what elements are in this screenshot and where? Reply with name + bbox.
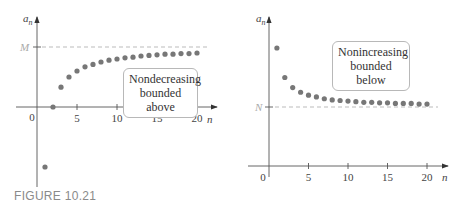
- x-tick-label: 10: [343, 171, 355, 183]
- y-axis-label: an: [23, 12, 33, 27]
- origin-label: 0: [260, 171, 266, 183]
- data-point: [122, 55, 127, 60]
- data-point: [178, 51, 183, 56]
- data-point: [274, 45, 279, 50]
- data-point: [66, 74, 71, 79]
- data-point: [42, 164, 47, 169]
- data-point: [282, 75, 287, 80]
- x-tick-label: 15: [382, 171, 394, 183]
- data-point: [409, 101, 414, 106]
- annotation-line-1: Nonincreasing: [338, 45, 404, 59]
- right-chart: 5101520 0 n an N: [248, 12, 448, 183]
- data-point: [154, 52, 159, 57]
- data-point: [314, 94, 319, 99]
- data-point: [361, 100, 366, 105]
- data-point: [58, 85, 63, 90]
- data-point: [417, 101, 422, 106]
- data-point: [106, 58, 111, 63]
- data-point: [146, 53, 151, 58]
- data-point: [385, 100, 390, 105]
- x-tick-label: 5: [306, 171, 312, 183]
- data-point: [377, 100, 382, 105]
- data-point: [82, 64, 87, 69]
- origin-label: 0: [29, 111, 35, 123]
- x-axis-label: n: [442, 171, 448, 183]
- data-point: [74, 68, 79, 73]
- bound-label: N: [254, 101, 263, 113]
- data-point: [369, 100, 374, 105]
- x-tick-label: 10: [112, 112, 124, 124]
- data-point: [138, 53, 143, 58]
- data-point: [424, 101, 429, 106]
- annotation-left: Nondecreasing bounded above: [123, 68, 198, 118]
- data-point: [98, 59, 103, 64]
- data-point: [322, 96, 327, 101]
- data-point: [338, 98, 343, 103]
- data-point: [401, 101, 406, 106]
- data-point: [298, 90, 303, 95]
- data-point: [130, 55, 135, 60]
- data-point: [393, 101, 398, 106]
- data-point: [90, 62, 95, 67]
- annotation-line-2: bounded below: [338, 59, 404, 87]
- data-point: [186, 51, 191, 56]
- data-point: [114, 56, 119, 61]
- data-point: [170, 52, 175, 57]
- data-point: [290, 85, 295, 90]
- x-tick-label: 20: [422, 171, 434, 183]
- data-point: [306, 93, 311, 98]
- data-point: [50, 104, 55, 109]
- y-axis-label: an: [256, 12, 266, 27]
- data-point: [330, 97, 335, 102]
- x-tick-label: 5: [74, 112, 80, 124]
- x-axis-label: n: [207, 113, 213, 125]
- data-point: [345, 99, 350, 104]
- annotation-line-2: bounded above: [129, 86, 192, 114]
- data-point: [162, 52, 167, 57]
- bound-label: M: [19, 41, 30, 53]
- data-point: [353, 99, 358, 104]
- annotation-right: Nonincreasing bounded below: [332, 41, 410, 91]
- annotation-line-1: Nondecreasing: [129, 72, 192, 86]
- figure-canvas: 5101520 0 n an M 5101520 0 n an N: [0, 0, 459, 208]
- data-point: [194, 50, 199, 55]
- figure-caption: FIGURE 10.21: [14, 189, 96, 203]
